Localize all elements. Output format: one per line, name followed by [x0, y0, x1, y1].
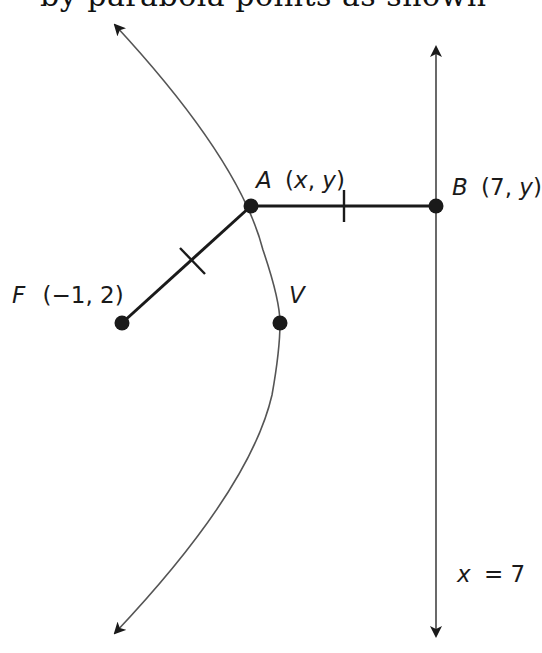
label-B: B (7, y)	[452, 174, 542, 200]
point-A	[244, 199, 259, 214]
label-V: V	[289, 282, 307, 308]
label-directrix: x = 7	[456, 561, 525, 587]
parabola-diagram: A (x, y) B (7, y) F (−1, 2) V x = 7	[0, 0, 542, 653]
point-B	[429, 199, 444, 214]
parabola-curve	[115, 25, 280, 633]
segment-FA	[122, 206, 251, 323]
point-V	[273, 316, 288, 331]
label-A: A (x, y)	[254, 167, 345, 193]
point-F	[115, 316, 130, 331]
label-F: F (−1, 2)	[12, 282, 124, 308]
